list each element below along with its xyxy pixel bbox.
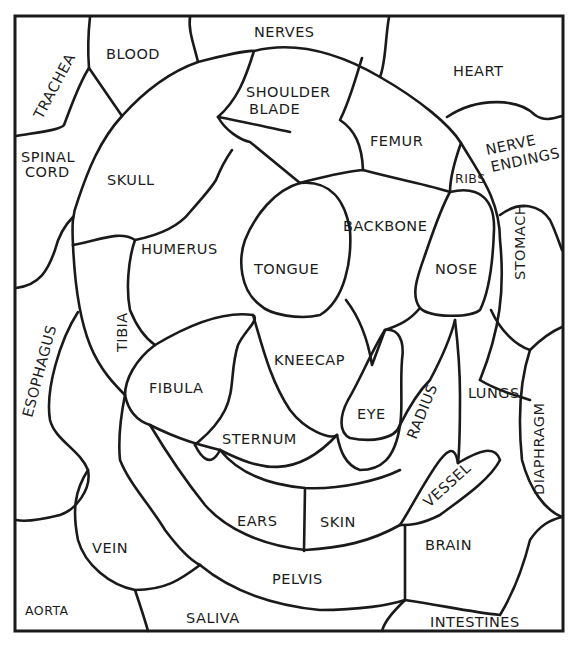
label-intestines: INTESTINES <box>430 614 520 630</box>
label-cord: CORD <box>25 164 70 180</box>
label-blood: BLOOD <box>106 46 160 62</box>
label-shoulder: SHOULDER <box>246 84 331 100</box>
label-pelvis: PELVIS <box>272 571 323 587</box>
label-diaphragm: DIAPHRAGM <box>531 403 547 495</box>
label-ears: EARS <box>237 513 277 529</box>
label-radius: RADIUS <box>404 382 440 441</box>
label-saliva: SALIVA <box>186 610 240 626</box>
label-backbone: BACKBONE <box>343 218 427 234</box>
label-stomach: STOMACH <box>512 204 528 280</box>
label-aorta: AORTA <box>25 603 69 618</box>
label-kneecap: KNEECAP <box>274 352 345 368</box>
label-lungs: LUNGS <box>468 385 520 401</box>
label-vein: VEIN <box>92 540 128 556</box>
label-nerves: NERVES <box>254 24 315 40</box>
label-spinal: SPINAL <box>21 149 75 165</box>
label-femur: FEMUR <box>370 133 423 149</box>
label-heart: HEART <box>453 63 503 79</box>
label-ribs: RIBS <box>455 171 486 186</box>
label-blade: BLADE <box>249 101 300 117</box>
label-sternum: STERNUM <box>222 431 297 447</box>
label-trachea: TRACHEA <box>30 51 78 123</box>
label-brain: BRAIN <box>425 537 472 553</box>
illustration-canvas: NERVES TRACHEA BLOOD HEART SHOULDER BLAD… <box>0 0 577 647</box>
label-skull: SKULL <box>107 172 155 188</box>
label-fibula: FIBULA <box>149 380 204 396</box>
label-humerus: HUMERUS <box>141 241 218 257</box>
label-skin: SKIN <box>320 514 356 530</box>
region-map: NERVES TRACHEA BLOOD HEART SHOULDER BLAD… <box>0 0 577 647</box>
region-labels: NERVES TRACHEA BLOOD HEART SHOULDER BLAD… <box>19 24 561 630</box>
label-eye: EYE <box>357 406 386 422</box>
label-vessel: VESSEL <box>420 460 474 511</box>
label-nose: NOSE <box>435 261 478 277</box>
label-tibia: TIBIA <box>114 312 130 353</box>
label-tongue: TONGUE <box>253 261 319 277</box>
